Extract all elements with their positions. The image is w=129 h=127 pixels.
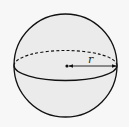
center-point — [65, 64, 68, 67]
sphere-diagram: r — [0, 0, 129, 127]
radius-label: r — [88, 53, 94, 66]
